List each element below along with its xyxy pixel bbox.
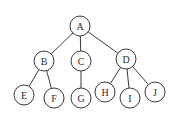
node-label: C xyxy=(78,56,85,67)
node-label: G xyxy=(77,93,84,104)
node-label: D xyxy=(122,54,129,65)
node-i: I xyxy=(120,88,140,108)
node-b: B xyxy=(34,51,54,71)
node-d: D xyxy=(116,49,136,69)
edge-a-b xyxy=(51,33,73,54)
node-c: C xyxy=(71,51,91,71)
edge-a-d xyxy=(88,32,118,53)
edge-d-h xyxy=(110,67,120,83)
tree-diagram: ABCDEFGHIJ xyxy=(0,0,176,113)
node-label: B xyxy=(41,56,48,67)
edge-b-f xyxy=(47,71,52,89)
node-label: H xyxy=(101,87,108,98)
node-label: I xyxy=(128,93,131,104)
edge-d-j xyxy=(133,67,149,85)
node-a: A xyxy=(70,16,90,36)
edge-b-e xyxy=(29,70,39,87)
tree-nodes: ABCDEFGHIJ xyxy=(14,16,165,108)
node-label: E xyxy=(21,90,27,101)
node-h: H xyxy=(95,82,115,102)
node-label: J xyxy=(153,87,157,98)
edge-d-i xyxy=(127,69,129,88)
node-e: E xyxy=(14,85,34,105)
node-label: A xyxy=(76,21,84,32)
node-j: J xyxy=(145,82,165,102)
node-f: F xyxy=(44,88,64,108)
node-g: G xyxy=(71,88,91,108)
node-label: F xyxy=(51,93,57,104)
